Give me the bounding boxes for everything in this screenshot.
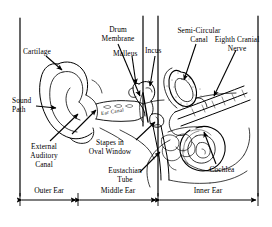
- leader-cochlea: [204, 132, 216, 164]
- label-stapes-oval-window-line2: Oval Window: [76, 148, 144, 156]
- leader-incus: [150, 56, 155, 86]
- leader-eighth-cranial-nerve: [214, 50, 236, 96]
- label-sound-path-line2: Path: [12, 106, 26, 114]
- region-label-inner-ear: Inner Ear: [176, 187, 240, 195]
- label-external-auditory-canal-line3: Canal: [18, 161, 70, 169]
- ear-anatomy-diagram: Cartilage Sound Path External Auditory C…: [0, 0, 272, 227]
- label-drum-membrane-line2: Membrane: [90, 35, 146, 43]
- region-label-outer-ear: Outer Ear: [20, 187, 78, 195]
- label-cochlea: Cochlea: [200, 166, 244, 174]
- leader-stapes-oval-window: [136, 122, 155, 140]
- label-malleus: Malleus: [113, 50, 138, 58]
- label-incus: Incus: [145, 47, 162, 55]
- leader-external-auditory-canal: [50, 114, 78, 141]
- region-label-middle-ear: Middle Ear: [84, 187, 152, 195]
- leader-semicircular-canal: [184, 44, 196, 80]
- label-cartilage: Cartilage: [23, 48, 51, 56]
- leader-cartilage: [46, 56, 62, 70]
- leader-sound-path-into-canal: [72, 110, 96, 134]
- label-eighth-cranial-nerve-line2: Nerve: [206, 45, 268, 53]
- label-eustachian-tube-line2: Tube: [96, 176, 154, 184]
- leader-sound-path: [36, 106, 56, 108]
